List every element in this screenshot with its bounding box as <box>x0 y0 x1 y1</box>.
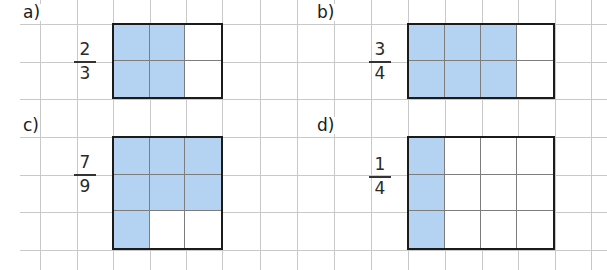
fraction-numerator: 2 <box>74 41 96 58</box>
empty-cell <box>517 138 553 175</box>
shaded-cell <box>185 175 221 212</box>
fraction-denominator: 3 <box>74 65 96 82</box>
empty-cell <box>445 211 481 248</box>
empty-cell <box>445 175 481 212</box>
empty-cell <box>517 211 553 248</box>
shaded-cell <box>409 211 445 248</box>
grid-line-vertical <box>260 0 261 270</box>
fraction-grid-b <box>407 23 555 99</box>
empty-cell <box>517 175 553 212</box>
fraction-numerator: 7 <box>74 154 96 171</box>
shaded-cell <box>409 138 445 175</box>
empty-cell <box>185 211 221 248</box>
exercise-label-a: a) <box>22 4 41 21</box>
empty-cell <box>517 25 553 61</box>
shaded-cell <box>114 61 150 97</box>
shaded-cell <box>409 25 445 61</box>
fraction-denominator: 4 <box>369 180 391 197</box>
shaded-cell <box>481 61 517 97</box>
grid-line-horizontal <box>20 250 607 251</box>
shaded-cell <box>150 61 186 97</box>
shaded-cell <box>481 25 517 61</box>
shaded-cell <box>114 138 150 175</box>
shaded-cell <box>150 175 186 212</box>
shaded-cell <box>150 25 186 61</box>
shaded-cell <box>185 138 221 175</box>
grid-line-vertical <box>591 0 592 270</box>
fraction-numerator: 3 <box>369 41 391 58</box>
grid-line-vertical <box>297 0 298 270</box>
empty-cell <box>185 25 221 61</box>
grid-line-horizontal <box>20 99 607 100</box>
exercise-label-c: c) <box>22 117 40 134</box>
grid-line-vertical <box>555 0 556 270</box>
empty-cell <box>481 138 517 175</box>
shaded-cell <box>114 25 150 61</box>
fraction-denominator: 4 <box>369 65 391 82</box>
empty-cell <box>445 138 481 175</box>
shaded-cell <box>114 211 150 248</box>
empty-cell <box>481 175 517 212</box>
empty-cell <box>517 61 553 97</box>
fraction-numerator: 1 <box>369 156 391 173</box>
shaded-cell <box>409 175 445 212</box>
fraction-grid-d <box>407 136 555 250</box>
empty-cell <box>481 211 517 248</box>
shaded-cell <box>445 25 481 61</box>
empty-cell <box>150 211 186 248</box>
grid-line-vertical <box>334 0 335 270</box>
fraction-grid-a <box>112 23 223 99</box>
shaded-cell <box>445 61 481 97</box>
shaded-cell <box>150 138 186 175</box>
exercise-label-b: b) <box>316 4 335 21</box>
fraction-denominator: 9 <box>74 178 96 195</box>
shaded-cell <box>409 61 445 97</box>
fraction-grid-c <box>112 136 223 250</box>
shaded-cell <box>114 175 150 212</box>
grid-line-vertical <box>40 0 41 270</box>
exercise-label-d: d) <box>316 117 335 134</box>
empty-cell <box>185 61 221 97</box>
